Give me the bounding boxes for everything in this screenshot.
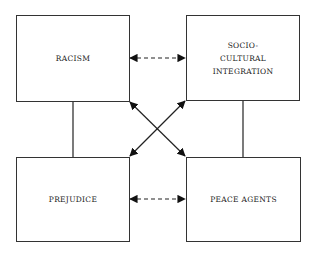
- node-prejudice-label: PREJUDICE: [49, 193, 97, 206]
- node-prejudice: PREJUDICE: [16, 157, 130, 242]
- node-socio-cultural-integration: SOCIO- CULTURAL INTEGRATION: [186, 15, 300, 101]
- node-racism-label: RACISM: [56, 52, 90, 65]
- node-socio-label-line-3: INTEGRATION: [213, 65, 274, 78]
- node-socio-label-line-1: SOCIO-: [213, 39, 274, 52]
- node-peace-agents-label: PEACE AGENTS: [210, 193, 277, 206]
- node-socio-label: SOCIO- CULTURAL INTEGRATION: [213, 39, 274, 78]
- node-socio-label-line-2: CULTURAL: [213, 52, 274, 65]
- node-racism: RACISM: [16, 15, 130, 102]
- node-peace-agents: PEACE AGENTS: [186, 157, 301, 242]
